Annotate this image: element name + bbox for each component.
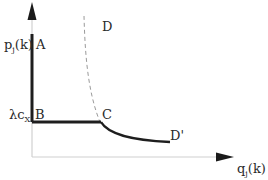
x-axis-label: qj(k) <box>237 162 266 178</box>
point-label-c: C <box>102 108 112 121</box>
diagram-svg <box>0 0 268 180</box>
y-tick-label-sub: X <box>25 115 31 124</box>
y-tick-label-base: λc <box>9 107 25 122</box>
y-axis-label: pj(k) <box>4 38 33 54</box>
y-axis-arrow-icon <box>28 2 37 20</box>
diagram-canvas: pj(k) A D λcX B C D' qj(k) <box>0 0 268 180</box>
point-label-d: D <box>102 20 112 33</box>
point-label-a: A <box>36 38 45 51</box>
dashed-curve-d-to-c <box>84 16 100 122</box>
y-axis-label-rest: (k) <box>15 37 33 52</box>
point-label-d-prime: D' <box>170 129 184 142</box>
point-label-b: B <box>35 108 45 121</box>
curve-c-to-d-prime <box>101 122 170 142</box>
x-axis-arrow-icon <box>216 153 234 162</box>
y-tick-label: λcX <box>9 108 30 124</box>
x-axis-label-rest: (k) <box>248 161 266 176</box>
